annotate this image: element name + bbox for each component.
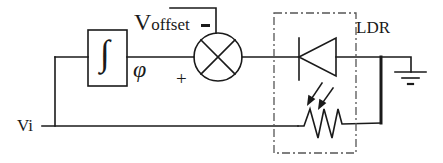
diode-icon xyxy=(299,38,336,80)
offset-label: Voffset xyxy=(134,10,190,34)
offset-minus-sign xyxy=(201,24,210,27)
plus-sign-label: + xyxy=(176,69,187,88)
input-label: Vi xyxy=(17,117,33,134)
ldr-label: LDR xyxy=(356,19,390,36)
ground-icon xyxy=(381,57,426,84)
ldr-enclosure xyxy=(274,13,356,153)
integral-icon: ∫ xyxy=(100,35,110,71)
phase-label: φ xyxy=(133,57,146,81)
offset-label-main: V xyxy=(134,9,151,35)
offset-label-sub: offset xyxy=(151,15,189,34)
mixer-icon xyxy=(194,33,242,81)
photoresistor-icon xyxy=(298,83,381,138)
